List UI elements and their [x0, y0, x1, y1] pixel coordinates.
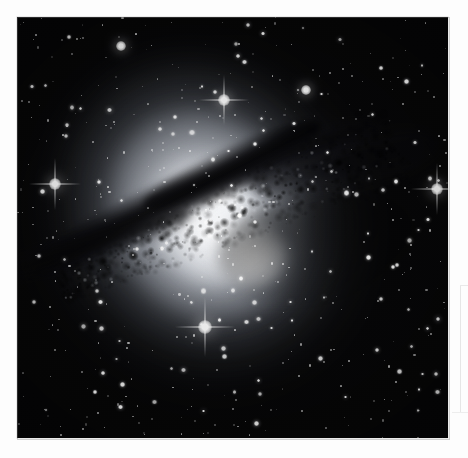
star	[135, 247, 139, 251]
star	[203, 433, 204, 434]
star	[201, 165, 203, 167]
star	[118, 46, 119, 47]
star	[426, 218, 429, 221]
star	[282, 362, 284, 364]
star	[265, 111, 266, 112]
star	[234, 204, 236, 206]
star	[311, 180, 314, 183]
star	[445, 152, 447, 154]
star	[407, 238, 412, 243]
star	[194, 420, 196, 422]
star	[382, 78, 384, 80]
star	[348, 425, 349, 426]
star	[75, 113, 76, 114]
star	[121, 17, 123, 19]
star	[298, 101, 300, 103]
star	[98, 342, 100, 344]
star	[131, 47, 132, 48]
star	[262, 129, 265, 132]
star	[173, 115, 177, 119]
star	[292, 200, 293, 201]
star	[187, 409, 188, 410]
star	[37, 254, 41, 258]
star	[181, 97, 183, 99]
star	[262, 275, 264, 277]
star	[371, 113, 374, 116]
star	[208, 175, 210, 177]
star	[111, 281, 113, 283]
star	[67, 179, 68, 180]
star	[50, 376, 51, 377]
star	[249, 365, 251, 367]
star	[218, 74, 220, 76]
star	[107, 395, 109, 397]
star	[352, 191, 354, 193]
star	[257, 379, 260, 382]
dust-lane-east-wing	[245, 114, 443, 213]
star	[87, 219, 88, 220]
star	[118, 340, 121, 343]
star	[286, 274, 288, 276]
star	[159, 121, 161, 123]
star	[375, 348, 379, 352]
star	[218, 255, 220, 257]
star	[118, 405, 122, 409]
star	[54, 349, 56, 351]
star	[171, 22, 172, 23]
star	[325, 180, 327, 182]
star	[326, 151, 329, 154]
star	[208, 116, 209, 117]
star	[397, 369, 402, 374]
star	[151, 149, 153, 151]
star	[59, 199, 60, 200]
star	[325, 296, 327, 298]
star	[379, 297, 383, 301]
star	[230, 184, 232, 186]
star	[418, 130, 420, 132]
star	[430, 333, 432, 335]
star	[237, 213, 242, 218]
diffraction-spike-vertical	[204, 297, 205, 357]
star	[209, 218, 212, 221]
star	[271, 262, 273, 264]
star	[299, 229, 300, 230]
star	[67, 35, 71, 39]
star	[107, 186, 109, 188]
star	[407, 395, 408, 396]
scan-artifact-horizontal-rule	[452, 412, 468, 413]
star	[70, 409, 71, 410]
star	[82, 24, 84, 26]
star	[327, 93, 329, 95]
star	[205, 44, 206, 45]
star	[382, 419, 384, 421]
star	[39, 139, 40, 140]
dust-lane-upper-band	[137, 105, 386, 224]
star	[185, 84, 186, 85]
star	[315, 138, 317, 140]
star	[207, 384, 209, 386]
star	[261, 32, 264, 35]
star	[391, 400, 392, 401]
star	[41, 18, 42, 19]
star	[44, 84, 47, 87]
star-foreground-south	[175, 297, 235, 357]
star	[204, 214, 206, 216]
star	[246, 23, 251, 28]
star	[178, 293, 180, 295]
star	[216, 369, 217, 370]
star	[258, 392, 262, 396]
star	[305, 298, 307, 300]
star	[245, 421, 246, 422]
star	[190, 301, 193, 304]
scan-artifact-corner-rule	[460, 285, 468, 286]
star	[81, 371, 83, 373]
star	[427, 90, 429, 92]
star	[436, 317, 441, 322]
star	[355, 118, 357, 120]
star	[20, 188, 22, 190]
star	[191, 192, 192, 193]
star	[381, 188, 385, 192]
star	[218, 206, 220, 208]
star	[389, 162, 390, 163]
star	[108, 191, 110, 193]
